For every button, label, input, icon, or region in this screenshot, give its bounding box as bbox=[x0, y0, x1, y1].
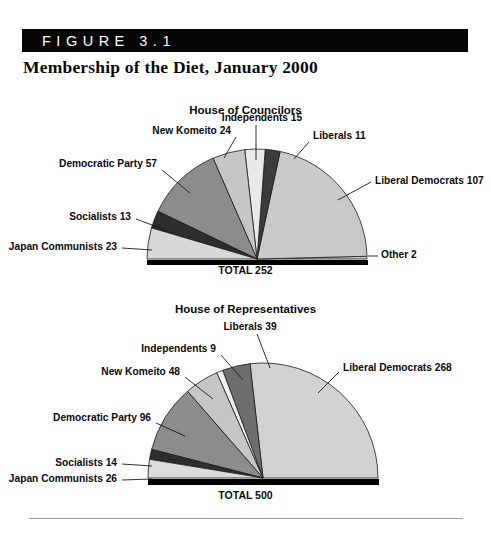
councilors-label-5: Democratic Party 57 bbox=[59, 158, 157, 169]
representatives-label-2: Independents 9 bbox=[141, 343, 216, 354]
representatives-label-0: Liberal Democrats 268 bbox=[343, 362, 452, 373]
chart-total-councilors: TOTAL 252 bbox=[0, 264, 491, 276]
representatives-label-4: Democratic Party 96 bbox=[53, 412, 151, 423]
representatives-label-5: Socialists 14 bbox=[55, 457, 117, 468]
councilors-label-3: Independents 15 bbox=[222, 112, 303, 123]
bottom-rule-divider bbox=[29, 518, 463, 519]
representatives-wedge-0 bbox=[250, 363, 378, 478]
councilors-label-6: Socialists 13 bbox=[69, 211, 131, 222]
representatives-label-1: Liberals 39 bbox=[223, 321, 277, 332]
councilors-label-4: New Komeito 24 bbox=[152, 125, 231, 136]
councilors-leader-2 bbox=[294, 142, 309, 159]
pie-chart-councilors: Other 2Liberal Democrats 107Liberals 11I… bbox=[0, 0, 491, 290]
chart-total-representatives: TOTAL 500 bbox=[0, 489, 491, 501]
figure-page: FIGURE 3.1 Membership of the Diet, Janua… bbox=[0, 0, 491, 538]
representatives-label-6: Japan Communists 26 bbox=[9, 473, 117, 484]
councilors-label-1: Liberal Democrats 107 bbox=[375, 175, 484, 186]
councilors-label-0: Other 2 bbox=[381, 249, 417, 260]
representatives-leader-5 bbox=[122, 464, 152, 466]
councilors-label-2: Liberals 11 bbox=[313, 130, 366, 141]
representatives-label-3: New Komeito 48 bbox=[101, 366, 180, 377]
representatives-baseline bbox=[148, 479, 379, 485]
representatives-leader-6 bbox=[122, 479, 152, 480]
councilors-label-7: Japan Communists 23 bbox=[9, 241, 117, 252]
